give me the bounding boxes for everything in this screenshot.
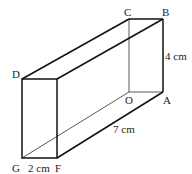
edge-top-right	[57, 19, 163, 79]
label-C: C	[124, 6, 131, 18]
dimension-length: 7 cm	[113, 123, 135, 135]
cuboid-edges	[22, 19, 163, 158]
dimension-height: 4 cm	[165, 50, 187, 62]
label-D: D	[12, 68, 20, 80]
edge-FA	[57, 92, 163, 158]
edge-DC	[22, 19, 129, 79]
dimension-width: 2 cm	[28, 162, 50, 174]
label-G: G	[12, 162, 20, 174]
label-A: A	[163, 94, 171, 106]
cuboid-diagram: C B D O A G F 4 cm 7 cm 2 cm	[0, 0, 192, 174]
label-O: O	[125, 94, 133, 106]
label-F: F	[55, 162, 61, 174]
front-face	[22, 79, 57, 158]
label-B: B	[162, 6, 169, 18]
